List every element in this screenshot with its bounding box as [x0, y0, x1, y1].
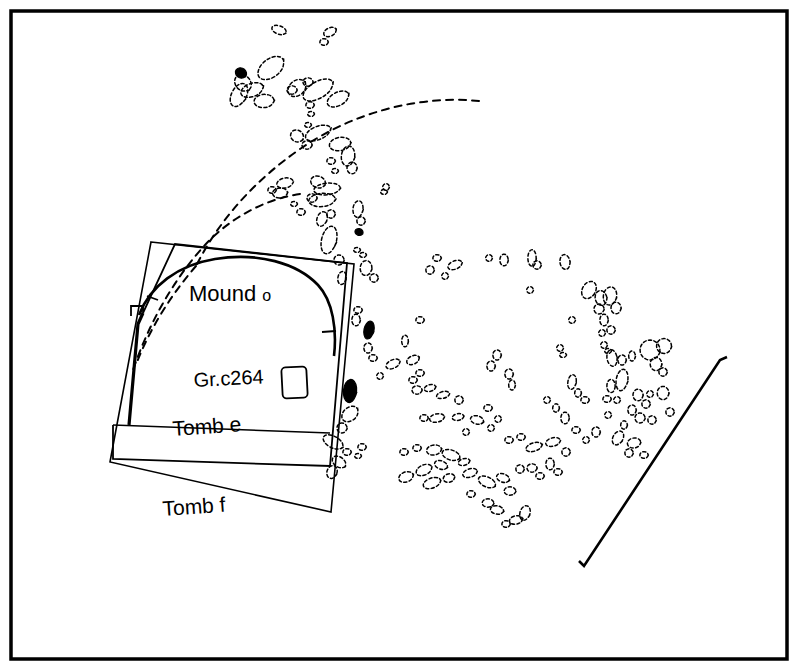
label-grave-c264: Gr.c264: [193, 365, 264, 391]
label-mound-suffix: o: [262, 287, 271, 304]
site-plan-canvas: Moundo Gr.c264 Tomb e Tomb f: [0, 0, 800, 672]
label-tomb-f: Tomb f: [162, 493, 227, 520]
site-plan-figure: Moundo Gr.c264 Tomb e Tomb f: [0, 0, 800, 672]
label-tomb-e: Tomb e: [172, 412, 242, 440]
mound-arc-tick-right: [322, 331, 336, 332]
label-mound-text: Mound: [189, 281, 256, 306]
figure-background: [0, 0, 800, 672]
